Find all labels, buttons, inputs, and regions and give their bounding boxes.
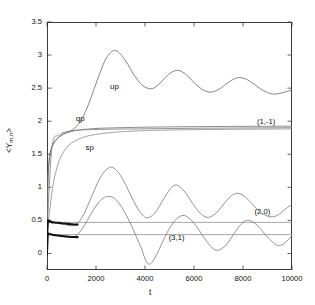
x-axis-title: t	[149, 288, 151, 297]
y-tick-label: 3.5	[16, 18, 42, 26]
series-line-transient-thick-lower	[47, 234, 78, 253]
y-tick-label: 0.5	[16, 216, 42, 224]
x-tick-label: 6000	[174, 275, 214, 283]
y-axis-title-subscript: m,n	[8, 133, 14, 143]
y-tick-label: 2	[16, 117, 42, 125]
data-series-group	[47, 50, 292, 264]
curve-label-up: up	[110, 82, 119, 91]
curve-layer	[0, 0, 315, 305]
series-line-1-1	[47, 128, 292, 234]
y-tick-label: 1.5	[16, 150, 42, 158]
y-tick-label: 0	[16, 249, 42, 257]
curve-label-sp: sp	[86, 143, 94, 152]
state-label-2-0: (2,0)	[255, 207, 271, 216]
x-tick-label: 4000	[125, 275, 165, 283]
state-label-3-1: (3,1)	[169, 233, 185, 242]
x-tick-label: 8000	[223, 275, 263, 283]
state-label-1-minus1: (1,-1)	[257, 117, 275, 126]
curve-label-qp: qp	[76, 114, 85, 123]
y-axis-title: <Ym,n>	[5, 113, 14, 169]
y-tick-label: 3	[16, 51, 42, 59]
y-tick-label: 1	[16, 183, 42, 191]
series-line-sp	[47, 129, 292, 235]
chart-figure: 00.511.522.533.5 0200040006000800010000 …	[0, 0, 315, 305]
y-tick-label: 2.5	[16, 84, 42, 92]
x-tick-label: 10000	[272, 275, 312, 283]
series-line-qp	[47, 126, 292, 233]
x-tick-label: 2000	[76, 275, 116, 283]
y-axis-title-base: <Y	[5, 143, 14, 153]
y-axis-title-close: >	[5, 128, 14, 133]
series-line-up	[47, 50, 292, 233]
x-tick-label: 0	[27, 275, 67, 283]
